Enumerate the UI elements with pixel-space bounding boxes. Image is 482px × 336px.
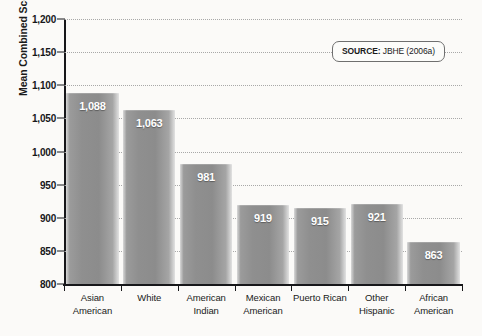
bar[interactable]: 915 (294, 208, 346, 284)
y-axis-tick-label: 950 (12, 179, 56, 190)
y-axis-tick-mark (57, 250, 65, 251)
y-axis-tick-label: 800 (12, 279, 56, 290)
y-axis-tick-label: 850 (12, 245, 56, 256)
y-axis-tick-mark (57, 19, 65, 20)
y-axis-tick-label: 900 (12, 212, 56, 223)
bar[interactable]: 981 (180, 164, 232, 284)
bar[interactable]: 1,088 (66, 93, 118, 284)
category-label-line: Indian (193, 305, 218, 316)
bar-value-label: 1,088 (66, 100, 118, 112)
y-axis-tick-label: 1,150 (12, 47, 56, 58)
category-label-line: African (419, 292, 448, 303)
x-axis-tick-mark (235, 284, 236, 291)
x-axis-tick-mark (121, 284, 122, 291)
bar[interactable]: 919 (237, 205, 289, 284)
x-axis-tick-mark (291, 284, 292, 291)
y-axis-tick-mark (57, 151, 65, 152)
bar-value-label: 919 (237, 212, 289, 224)
source-label: SOURCE: (342, 46, 381, 56)
x-axis-line (63, 284, 463, 286)
y-axis-tick-label: 1,000 (12, 146, 56, 157)
category-label-line: Hispanic (359, 305, 395, 316)
bar-value-label: 915 (294, 215, 346, 227)
bar-value-label: 921 (351, 211, 403, 223)
x-axis-category-label: White (121, 292, 178, 305)
x-axis-category-label: Puerto Rican (291, 292, 348, 305)
y-axis-tick-mark (57, 118, 65, 119)
bar-value-label: 1,063 (123, 117, 175, 129)
bar[interactable]: 1,063 (123, 110, 175, 284)
category-label-line: Asian (81, 292, 104, 303)
x-axis-tick-mark (64, 284, 65, 291)
y-axis-tick-mark (57, 217, 65, 218)
y-axis-tick-label: 1,100 (12, 80, 56, 91)
x-axis-tick-mark (462, 284, 463, 291)
source-note: SOURCE: JBHE (2006a) (332, 41, 445, 62)
gridline (64, 85, 462, 86)
bar[interactable]: 863 (407, 242, 459, 284)
x-axis-tick-mark (348, 284, 349, 291)
gridline (64, 19, 462, 20)
category-label-line: Mexican (246, 292, 281, 303)
category-label-line: American (186, 292, 225, 303)
x-axis-category-label: AmericanIndian (178, 292, 235, 317)
bar-value-label: 863 (407, 249, 459, 261)
y-axis-tick-label: 1,200 (12, 14, 56, 25)
y-axis-tick-mark (57, 85, 65, 86)
x-axis-tick-mark (178, 284, 179, 291)
bar-value-label: 981 (180, 171, 232, 183)
source-text: JBHE (2006a) (381, 46, 435, 56)
category-label-line: American (243, 305, 282, 316)
category-label-line: Other (365, 292, 388, 303)
x-axis-category-label: MexicanAmerican (235, 292, 292, 317)
category-label-line: American (73, 305, 112, 316)
y-axis-tick-mark (57, 52, 65, 53)
category-label-line: Puerto Rican (293, 292, 347, 303)
category-label-line: White (137, 292, 161, 303)
bar[interactable]: 921 (351, 204, 403, 284)
x-axis-category-label: AfricanAmerican (405, 292, 462, 317)
x-axis-tick-mark (405, 284, 406, 291)
category-label-line: American (414, 305, 453, 316)
x-axis-category-label: AsianAmerican (64, 292, 121, 317)
bar-chart: Mean Combined Score 1,0881,0639819199159… (0, 0, 482, 336)
y-axis-tick-mark (57, 184, 65, 185)
x-axis-category-label: OtherHispanic (348, 292, 405, 317)
y-axis-tick-label: 1,050 (12, 113, 56, 124)
